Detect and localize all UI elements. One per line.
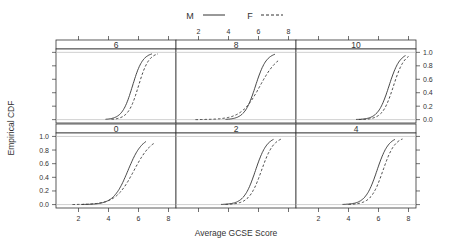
y-tick-label: 0.8 [39,147,49,154]
panel-strip-label: 10 [351,40,361,50]
panel-frame [56,49,176,123]
x-tick-label: 2 [317,215,321,222]
x-tick-label: 4 [227,28,231,35]
x-axis-label: Average GCSE Score [195,228,278,238]
panel-strip-label: 8 [234,40,239,50]
x-tick-label: 4 [347,215,351,222]
legend-label-m: M [186,11,194,21]
panel-frame [56,133,176,208]
x-tick-label: 6 [137,215,141,222]
panel-frame [296,49,416,123]
x-tick-label: 2 [197,28,201,35]
panel-strip-label: 6 [114,40,119,50]
x-tick-label: 4 [107,215,111,222]
legend-label-f: F [247,11,253,21]
y-tick-label: 0.6 [423,76,433,83]
y-tick-label: 0.0 [423,116,433,123]
x-tick-label: 8 [407,215,411,222]
y-tick-label: 1.0 [39,133,49,140]
panel-frame [296,133,416,208]
panel-strip-label: 0 [114,124,119,134]
panel-frame [176,133,296,208]
y-tick-label: 0.4 [39,174,49,181]
panel-strip-label: 2 [234,124,239,134]
y-tick-label: 0.4 [423,89,433,96]
x-tick-label: 6 [377,215,381,222]
x-tick-label: 8 [167,215,171,222]
y-axis-label: Empirical CDF [6,101,16,156]
cdf-trellis-chart: MF68100242468246824680.00.20.40.60.81.00… [0,0,453,247]
y-tick-label: 0.2 [423,103,433,110]
panel-strip-label: 4 [354,124,359,134]
y-tick-label: 0.0 [39,201,49,208]
y-tick-label: 1.0 [423,49,433,56]
panel-frame [176,49,296,123]
y-tick-label: 0.2 [39,187,49,194]
y-tick-label: 0.8 [423,62,433,69]
x-tick-label: 2 [77,215,81,222]
x-tick-label: 6 [257,28,261,35]
x-tick-label: 8 [287,28,291,35]
y-tick-label: 0.6 [39,160,49,167]
